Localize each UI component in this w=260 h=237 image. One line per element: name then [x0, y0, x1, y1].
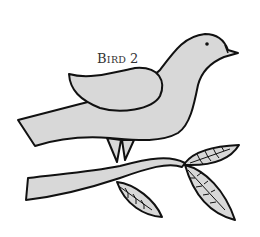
branch — [26, 158, 185, 200]
leaf-lower-middle — [117, 182, 162, 217]
leaf-lower-right — [185, 165, 235, 220]
bird-eye — [205, 42, 209, 46]
bird-legs — [107, 138, 134, 162]
bird-drawing — [0, 0, 260, 237]
caption-bird-2: BIRD 2 — [97, 51, 139, 66]
illustration: BIRD 2 — [0, 0, 260, 237]
